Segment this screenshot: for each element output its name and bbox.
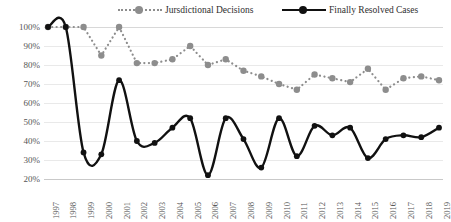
x-axis-tick-label: 2003 <box>158 202 167 219</box>
data-point <box>382 87 388 93</box>
x-axis-tick-label: 2004 <box>176 202 185 219</box>
dotted-line-marker-icon <box>118 3 162 17</box>
y-axis-tick-label: 100% <box>19 22 40 32</box>
x-axis-tick-label: 2000 <box>105 202 114 219</box>
data-point <box>418 73 424 79</box>
data-point <box>347 125 353 131</box>
x-axis-tick-label: 1998 <box>69 202 78 219</box>
x-axis-tick-label: 1997 <box>52 202 61 219</box>
series-line <box>48 18 439 175</box>
data-point <box>152 140 158 146</box>
x-axis-tick-label: 2017 <box>407 202 416 219</box>
data-point <box>276 115 282 121</box>
data-point <box>80 24 86 30</box>
series-finally-resolved-cases <box>45 18 442 178</box>
x-axis-labels: 1997199819992000200120022003200420052006… <box>44 181 443 222</box>
data-point <box>347 79 353 85</box>
plot-area <box>44 27 443 179</box>
data-point <box>258 165 264 171</box>
legend-item-finally-resolved-cases: Finally Resolved Cases <box>282 2 418 18</box>
x-axis-tick-label: 2011 <box>300 202 309 219</box>
data-point <box>383 136 389 142</box>
data-point <box>151 60 157 66</box>
legend-label-finally-resolved-cases: Finally Resolved Cases <box>329 2 418 18</box>
data-point <box>329 75 335 81</box>
data-point <box>312 123 318 129</box>
x-axis-tick-label: 2014 <box>354 202 363 219</box>
data-point <box>311 71 317 77</box>
chart-legend: Jursdictional Decisions Finally Resolved… <box>0 2 451 18</box>
x-axis-tick-label: 2015 <box>371 202 380 219</box>
data-point <box>276 81 282 87</box>
legend-label-jursdictional-decisions: Jursdictional Decisions <box>165 2 253 18</box>
data-point <box>134 138 140 144</box>
data-point <box>45 24 51 30</box>
series-jursdictional-decisions <box>45 24 442 93</box>
x-axis-tick-label: 2009 <box>265 202 274 219</box>
x-axis-tick-label: 2008 <box>247 202 256 219</box>
x-axis-tick-label: 2010 <box>283 202 292 219</box>
data-point <box>365 155 371 161</box>
x-axis-tick-label: 2005 <box>194 202 203 219</box>
legend-item-jursdictional-decisions: Jursdictional Decisions <box>118 2 253 18</box>
data-point <box>81 150 87 156</box>
data-point <box>116 24 122 30</box>
data-point <box>258 73 264 79</box>
data-point <box>241 136 247 142</box>
data-point <box>187 115 193 121</box>
data-point <box>436 125 442 131</box>
x-axis-tick-label: 2002 <box>140 202 149 219</box>
data-point <box>187 43 193 49</box>
data-point <box>240 68 246 74</box>
y-axis-tick-label: 90% <box>24 41 41 51</box>
x-axis-tick-label: 2019 <box>443 202 451 219</box>
chart-container: Jursdictional Decisions Finally Resolved… <box>0 0 451 222</box>
data-point <box>170 125 176 131</box>
data-point <box>169 56 175 62</box>
x-axis-tick-label: 1999 <box>87 202 96 219</box>
data-point <box>205 62 211 68</box>
x-axis-tick-label: 2016 <box>389 202 398 219</box>
data-point <box>134 60 140 66</box>
data-point <box>294 153 300 159</box>
x-axis-tick-label: 2018 <box>425 202 434 219</box>
x-axis-line <box>44 179 443 180</box>
y-axis-labels: 100%90%80%70%60%50%40%30%20% <box>0 0 44 222</box>
x-axis-tick-label: 2013 <box>336 202 345 219</box>
data-point <box>223 115 229 121</box>
data-point <box>329 132 335 138</box>
x-axis-tick-label: 2006 <box>211 202 220 219</box>
x-axis-tick-label: 2007 <box>229 202 238 219</box>
data-point <box>98 52 104 58</box>
data-point <box>116 77 122 83</box>
data-point <box>98 151 104 157</box>
series-layer <box>44 27 443 179</box>
y-axis-tick-label: 40% <box>24 136 41 146</box>
y-axis-tick-label: 50% <box>24 117 41 127</box>
y-axis-tick-label: 30% <box>24 155 41 165</box>
y-axis-tick-label: 20% <box>24 174 41 184</box>
data-point <box>294 87 300 93</box>
x-axis-tick-label: 2001 <box>123 202 132 219</box>
series-line <box>48 27 439 90</box>
data-point <box>401 132 407 138</box>
y-axis-tick-label: 70% <box>24 79 41 89</box>
data-point <box>223 56 229 62</box>
data-point <box>436 77 442 83</box>
data-point <box>205 172 211 178</box>
x-axis-tick-label: 2012 <box>318 202 327 219</box>
solid-line-marker-icon <box>282 3 326 17</box>
data-point <box>400 75 406 81</box>
y-axis-tick-label: 80% <box>24 60 41 70</box>
y-axis-tick-label: 60% <box>24 98 41 108</box>
data-point <box>418 134 424 140</box>
data-point <box>63 24 69 30</box>
data-point <box>365 66 371 72</box>
